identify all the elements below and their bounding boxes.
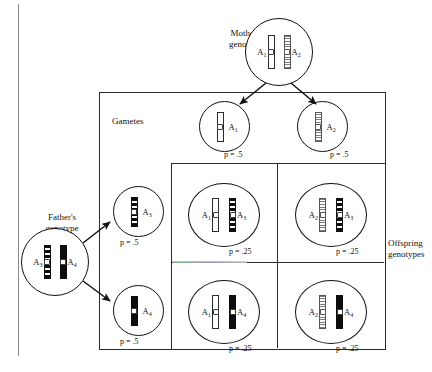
father-allele-right-label: A4: [68, 258, 77, 267]
chromosome-A1-white: A1: [268, 35, 275, 69]
scan-artifact-stripe: [173, 261, 247, 263]
figure-canvas: Mother's genotype Father's genotype Game…: [0, 0, 432, 372]
offspring-genotypes-caption: Offspring genotypes: [388, 238, 432, 261]
offspring-A1A4-right-label: A4: [237, 308, 246, 317]
centromere-dot: [268, 49, 274, 55]
centromere-dot: [60, 259, 66, 265]
father-genotype-circle: A3 A4: [21, 228, 89, 296]
offspring-A2A3-probability: p = .25: [336, 247, 359, 256]
chromosome-A1-white: A1: [212, 295, 219, 329]
chromosome-A4-solid: A4: [60, 245, 67, 279]
chromosome-A4-solid: A4: [336, 295, 343, 329]
father-allele-left-label: A3: [33, 258, 42, 267]
centromere-dot: [131, 308, 137, 314]
centromere-dot: [217, 124, 223, 130]
offspring-A2A4-left-label: A2: [309, 308, 318, 317]
offspring-A2A4-probability: p = .25: [336, 344, 359, 353]
chromosome-A3-banded: A3: [44, 245, 51, 279]
centromere-dot: [44, 259, 50, 265]
centromere-dot: [337, 212, 343, 218]
chromosome-A3-banded: A3: [336, 198, 343, 232]
gametes-caption: Gametes: [112, 116, 144, 127]
chromosome-A2-dotted: A2: [319, 198, 326, 232]
centromere-dot: [213, 212, 219, 218]
mother-allele-left-label: A1: [257, 48, 266, 57]
mother-genotype-circle: A1 A2: [245, 18, 313, 86]
offspring-A1A3-probability: p = .25: [229, 247, 252, 256]
offspring-cell-A1A4-circle: A1 A4: [188, 280, 260, 344]
gamete-mother-A1-label: A1: [229, 122, 238, 131]
offspring-cell-A2A4-circle: A2 A4: [295, 280, 367, 344]
centromere-dot: [337, 309, 343, 315]
gamete-father-A3-label: A3: [143, 207, 152, 216]
chromosome-A4-solid: A4: [131, 296, 138, 326]
page-margin-rule: [18, 4, 19, 356]
centromere-dot: [230, 212, 236, 218]
offspring-A2A3-right-label: A3: [344, 211, 353, 220]
offspring-A1A4-left-label: A1: [202, 308, 211, 317]
chromosome-A3-banded: A3: [131, 197, 138, 227]
gamete-mother-A2-label: A2: [327, 122, 336, 131]
chromosome-A1-white: A1: [212, 198, 219, 232]
centromere-dot: [230, 309, 236, 315]
gamete-father-A3-circle: A3: [113, 186, 164, 237]
chromosome-A3-banded: A3: [229, 198, 236, 232]
chromosome-A2-dotted: A2: [319, 295, 326, 329]
gamete-mother-A1-probability: p = .5: [224, 150, 243, 159]
gamete-father-A4-circle: A4: [113, 285, 164, 336]
offspring-cell-A2A3-circle: A2 A3: [295, 183, 367, 247]
centromere-dot: [320, 212, 326, 218]
gamete-father-A4-label: A4: [143, 306, 152, 315]
cut-off-header-text: [24, 0, 224, 8]
chromosome-A4-solid: A4: [229, 295, 236, 329]
mother-allele-right-label: A2: [292, 48, 301, 57]
gamete-mother-A2-probability: p = .5: [330, 150, 349, 159]
chromosome-A2-dotted: A2: [315, 112, 322, 142]
centromere-dot: [284, 49, 290, 55]
gamete-mother-A1-circle: A1: [199, 101, 250, 152]
centromere-dot: [213, 309, 219, 315]
chromosome-A2-dotted: A2: [284, 35, 291, 69]
centromere-dot: [131, 209, 137, 215]
offspring-grid-vertical-divider: [277, 163, 278, 348]
gamete-mother-A2-circle: A2: [297, 101, 348, 152]
centromere-dot: [315, 124, 321, 130]
offspring-A1A3-right-label: A3: [237, 211, 246, 220]
gamete-father-A3-probability: p = .5: [120, 238, 139, 247]
centromere-dot: [320, 309, 326, 315]
gamete-father-A4-probability: p = .5: [120, 337, 139, 346]
chromosome-A1-white: A1: [217, 112, 224, 142]
offspring-A1A4-probability: p = .25: [229, 344, 252, 353]
offspring-A2A4-right-label: A4: [344, 308, 353, 317]
offspring-A1A3-left-label: A1: [202, 211, 211, 220]
offspring-A2A3-left-label: A2: [309, 211, 318, 220]
offspring-cell-A1A3-circle: A1 A3: [188, 183, 260, 247]
